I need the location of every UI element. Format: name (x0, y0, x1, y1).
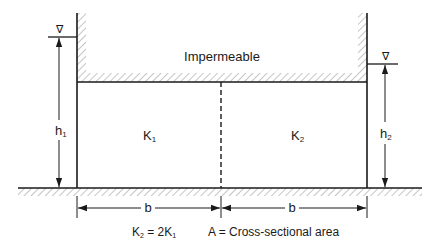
area-legend-caption: A = Cross-sectional area (208, 225, 339, 239)
b-left-label: b (144, 200, 151, 215)
b-right-label: b (288, 200, 295, 215)
k1-label: K1 (143, 128, 157, 144)
left-water-level-icon: ∇ (55, 23, 64, 35)
seepage-diagram: ∇ h1 ∇ h2 Impermeable K1 K2 b b K2 = 2K1… (0, 0, 434, 249)
right-wall-hatch (358, 13, 367, 73)
k-relation-caption: K2 = 2K1 (132, 225, 176, 239)
left-wall-hatch (77, 13, 86, 73)
k2-label: K2 (291, 128, 305, 144)
impermeable-label: Impermeable (184, 49, 260, 64)
right-water-level-icon: ∇ (381, 50, 390, 62)
ground-hatch (18, 188, 422, 196)
impermeable-layer-hatch (77, 73, 367, 82)
